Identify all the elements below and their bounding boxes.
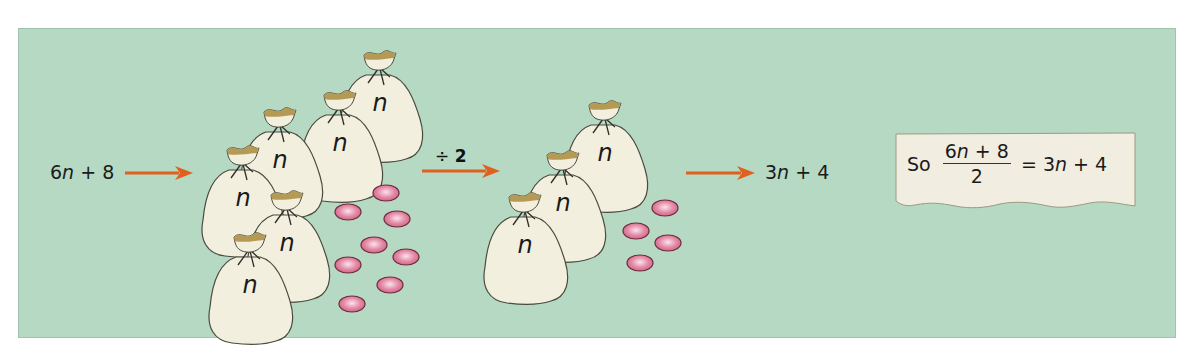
counter-before-7 [377, 277, 403, 293]
counter-before-8 [339, 296, 365, 312]
bag-label: n [517, 231, 532, 259]
result-const: 4 [817, 161, 829, 183]
divide-value: 2 [455, 146, 467, 166]
numerator-const: 8 [997, 140, 1009, 162]
bag-label: n [279, 229, 294, 257]
fraction-numerator: 6n + 8 [943, 140, 1011, 164]
start-coef: 6 [50, 161, 62, 183]
counter-before-3 [384, 211, 410, 227]
bag-label: n [235, 184, 250, 212]
counter-before-5 [393, 249, 419, 265]
fraction-denominator: 2 [971, 164, 983, 187]
counter-after-2 [623, 223, 649, 239]
arrow-3 [686, 166, 755, 180]
rhs-const: 4 [1095, 153, 1107, 175]
bag-label: n [242, 271, 257, 299]
result-coef: 3 [765, 161, 777, 183]
bag-label: n [272, 146, 287, 174]
rhs-coef: 3 [1043, 153, 1055, 175]
numerator-coef: 6 [945, 140, 957, 162]
start-expression: 6n + 8 [50, 161, 114, 183]
result-op: + [789, 161, 817, 183]
counter-before-6 [335, 257, 361, 273]
divide-symbol: ÷ [435, 146, 455, 166]
counter-before-4 [361, 237, 387, 253]
bag-label: n [372, 89, 387, 117]
conclusion-fraction: 6n + 8 2 [943, 140, 1011, 187]
arrow-1 [125, 166, 193, 180]
counter-before-2 [335, 204, 361, 220]
bag-label: n [332, 129, 347, 157]
rhs-op: + [1067, 153, 1095, 175]
conclusion-prefix: So [907, 153, 931, 175]
counter-after-3 [655, 235, 681, 251]
arrow-2 [422, 164, 500, 178]
conclusion-rhs: 3n + 4 [1043, 153, 1107, 175]
bag-label: n [555, 189, 570, 217]
result-var: n [777, 161, 789, 183]
numerator-op: + [969, 140, 997, 162]
rhs-var: n [1055, 153, 1067, 175]
result-expression: 3n + 4 [765, 161, 829, 183]
counter-after-1 [652, 200, 678, 216]
equals-sign: = [1015, 153, 1043, 175]
counter-before-1 [373, 185, 399, 201]
start-op: + [74, 161, 102, 183]
conclusion-text: So 6n + 8 2 = 3n + 4 [907, 140, 1107, 187]
counter-after-4 [627, 255, 653, 271]
numerator-var: n [957, 140, 969, 162]
bag-label: n [597, 139, 612, 167]
start-const: 8 [102, 161, 114, 183]
divide-label: ÷ 2 [435, 146, 467, 166]
start-var: n [62, 161, 74, 183]
